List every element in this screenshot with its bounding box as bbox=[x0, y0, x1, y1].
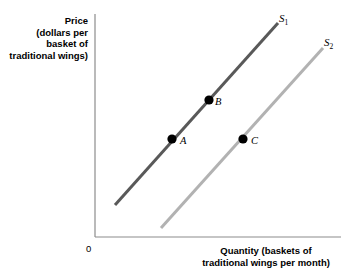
y-axis-title: Price (dollars per basket of traditional… bbox=[4, 15, 88, 61]
point-label-a: A bbox=[180, 135, 186, 146]
curve-label-s1-subscript: 1 bbox=[285, 18, 289, 27]
curve-label-s2-subscript: 2 bbox=[330, 42, 334, 51]
point-a-marker bbox=[167, 134, 176, 143]
supply-curve-figure: Price (dollars per basket of traditional… bbox=[0, 0, 351, 276]
supply-curve-s1 bbox=[115, 23, 278, 205]
origin-label: 0 bbox=[86, 243, 91, 254]
curve-label-s2: S2 bbox=[324, 36, 333, 51]
point-label-b: B bbox=[215, 96, 221, 107]
x-axis-title: Quantity (baskets of traditional wings p… bbox=[186, 245, 346, 268]
point-label-c: C bbox=[251, 135, 258, 146]
point-c-marker bbox=[238, 134, 247, 143]
curve-label-s1: S1 bbox=[279, 12, 288, 27]
point-b-marker bbox=[204, 95, 213, 104]
